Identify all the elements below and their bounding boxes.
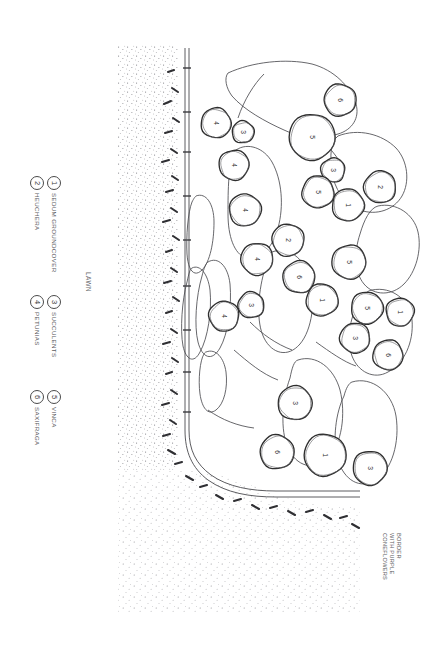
legend-label-5: VINCA	[51, 407, 58, 428]
plant-circle-key: 6	[274, 450, 281, 454]
plant-circle-key: 1	[319, 298, 326, 302]
plant-circle-key: 6	[337, 98, 344, 102]
plant-circle-key: 1	[345, 203, 352, 207]
plant-circle-key: 5	[309, 135, 316, 139]
legend-label-2: HEUCHERA	[34, 193, 41, 231]
plant-circle-key: 4	[242, 208, 249, 212]
legend-key-2: 2	[30, 176, 44, 190]
legend-key-3: 3	[47, 295, 61, 309]
legend-label-3: SUCCULENTS	[51, 312, 58, 357]
legend-key-number: 1	[48, 181, 60, 185]
plant-circle-key: 3	[240, 130, 247, 134]
plant-circle-key: 3	[292, 401, 299, 405]
legend-key-number: 5	[48, 395, 60, 399]
legend-key-number: 3	[48, 300, 60, 304]
border-note-line-1: BORDER	[395, 533, 402, 580]
legend-label-6: SAXIFRAGA	[34, 407, 41, 446]
plant-circle-key: 4	[231, 163, 238, 167]
plant-circle-key: 2	[377, 185, 384, 189]
plant-circle-key: 1	[397, 310, 404, 314]
border-note-line-2: WITH PURPLE	[388, 533, 395, 580]
legend-key-number: 2	[31, 181, 43, 185]
legend-label-1: SEDUM GROUNDCOVER	[51, 193, 58, 273]
legend-key-number: 6	[31, 395, 43, 399]
legend-key-1: 1	[47, 176, 61, 190]
legend-label-4: PETUNIAS	[34, 312, 41, 346]
plant-circle-key: 6	[385, 353, 392, 357]
plant-circle-key: 1	[322, 453, 329, 457]
planting-plan-sheet: 4365432514245631514363613 LAWN BORDER WI…	[0, 0, 442, 650]
plant-circle-key: 4	[213, 121, 220, 125]
plant-circle-key: 5	[346, 260, 353, 264]
plant-circle-key: 3	[248, 303, 255, 307]
plant-circle-key: 2	[285, 238, 292, 242]
plant-circle-key: 5	[364, 306, 371, 310]
legend-key-4: 4	[30, 295, 44, 309]
legend-key-6: 6	[30, 390, 44, 404]
border-note-line-3: CONEFLOWERS	[380, 533, 387, 580]
plant-circle-key: 3	[352, 336, 359, 340]
plant-circle-key: 5	[315, 190, 322, 194]
plant-circle-key: 4	[254, 257, 261, 261]
legend-key-number: 4	[31, 300, 43, 304]
legend-key-5: 5	[47, 390, 61, 404]
plant-circle-key: 4	[221, 314, 228, 318]
plant-circle-key: 6	[296, 275, 303, 279]
plant-circle-key: 3	[330, 168, 337, 172]
plant-circle-key: 3	[367, 466, 374, 470]
legend: 1SEDUM GROUNDCOVER2HEUCHERA3SUCCULENTS4P…	[0, 0, 110, 650]
border-note: BORDER WITH PURPLE CONEFLOWERS	[380, 533, 402, 580]
